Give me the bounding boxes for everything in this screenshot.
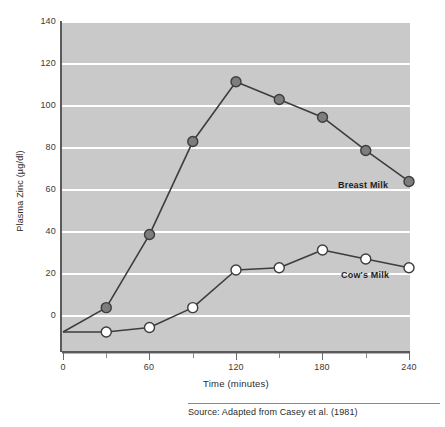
series-breast-milk (63, 77, 414, 332)
data-point (274, 95, 284, 105)
data-point (101, 327, 111, 337)
data-point (145, 230, 155, 240)
series-line (63, 250, 409, 332)
series-layer (0, 0, 445, 427)
source-note: Source: Adapted from Casey et al. (1981) (188, 407, 440, 417)
data-point (361, 145, 371, 155)
cows-milk-inline-label: Cow's Milk (341, 270, 389, 280)
data-point (188, 303, 198, 313)
data-point (404, 176, 414, 186)
data-point (404, 263, 414, 273)
data-point (318, 112, 328, 122)
data-point (188, 137, 198, 147)
data-point (361, 254, 371, 264)
data-point (318, 245, 328, 255)
data-point (231, 77, 241, 87)
source-divider (188, 403, 440, 404)
figure-container: 140 120 100 80 60 40 20 0 0 60 120 180 2… (0, 0, 445, 427)
data-point (145, 323, 155, 333)
data-point (274, 263, 284, 273)
data-point (231, 265, 241, 275)
data-point (101, 303, 111, 313)
series-line (63, 82, 409, 332)
breast-milk-inline-label: Breast Milk (338, 180, 388, 190)
